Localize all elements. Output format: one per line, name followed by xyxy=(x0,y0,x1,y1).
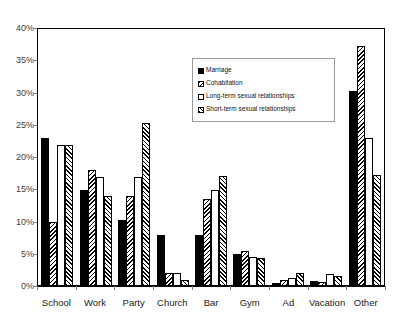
x-axis-label: Other xyxy=(346,292,385,314)
y-axis-tick-label: 5% xyxy=(0,249,34,259)
bar xyxy=(96,177,104,286)
y-axis-tick-label: 20% xyxy=(0,152,34,162)
bar xyxy=(142,123,150,286)
legend-item: Long-term sexual relationships xyxy=(198,90,330,103)
x-axis-tick-mark xyxy=(192,286,193,290)
bar xyxy=(126,196,134,286)
bar xyxy=(219,176,227,287)
y-axis-tick-label: 40% xyxy=(0,23,34,33)
x-axis-label: Bar xyxy=(192,292,231,314)
bar xyxy=(349,91,357,286)
x-axis-tick-mark xyxy=(76,286,77,290)
legend-swatch xyxy=(198,107,204,113)
bar xyxy=(233,254,241,286)
legend-swatch xyxy=(198,94,204,100)
bar xyxy=(211,190,219,286)
y-axis-tick-mark xyxy=(33,254,37,255)
bar xyxy=(118,220,126,286)
bar xyxy=(49,222,57,286)
bar xyxy=(288,278,296,286)
y-axis-tick-mark xyxy=(33,28,37,29)
legend-item: Cohabitation xyxy=(198,77,330,90)
y-axis-tick-label: 15% xyxy=(0,184,34,194)
x-axis-tick-mark xyxy=(153,286,154,290)
bar xyxy=(57,145,65,286)
legend-label: Marriage xyxy=(206,67,232,74)
x-axis-label: Work xyxy=(76,292,115,314)
bar xyxy=(373,175,381,286)
bar xyxy=(80,190,88,286)
y-axis-tick-mark xyxy=(33,60,37,61)
x-axis-tick-mark xyxy=(308,286,309,290)
y-axis-tick-label: 0% xyxy=(0,281,34,291)
x-axis-tick-mark xyxy=(37,286,38,290)
bar xyxy=(134,177,142,286)
y-axis-tick-label: 35% xyxy=(0,55,34,65)
legend-swatch xyxy=(198,81,204,87)
bar xyxy=(357,46,365,286)
bar xyxy=(249,257,257,286)
bar xyxy=(65,145,73,286)
bar xyxy=(326,274,334,286)
y-axis-tick-mark xyxy=(33,93,37,94)
x-axis-tick-mark xyxy=(114,286,115,290)
bar xyxy=(203,199,211,286)
bar-group xyxy=(153,29,191,286)
bar xyxy=(157,235,165,286)
x-axis-label: Ad xyxy=(269,292,308,314)
bar xyxy=(181,280,189,286)
bar xyxy=(272,283,280,286)
bar xyxy=(334,276,342,286)
bar xyxy=(365,138,373,286)
bar xyxy=(241,251,249,286)
y-axis-tick-mark xyxy=(33,189,37,190)
legend-label: Long-term sexual relationships xyxy=(206,93,295,100)
y-axis-tick-mark xyxy=(33,125,37,126)
bar xyxy=(104,196,112,286)
y-axis-tick-label: 25% xyxy=(0,120,34,130)
y-axis-tick-mark xyxy=(33,157,37,158)
legend-item: Marriage xyxy=(198,64,330,77)
x-axis-tick-mark xyxy=(230,286,231,290)
x-axis-tick-mark xyxy=(385,286,386,290)
y-axis-tick-label: 30% xyxy=(0,88,34,98)
legend: MarriageCohabitationLong-term sexual rel… xyxy=(192,58,335,122)
y-axis-tick-mark xyxy=(33,222,37,223)
x-axis-label: School xyxy=(37,292,76,314)
bar-group xyxy=(76,29,114,286)
bar xyxy=(318,282,326,286)
legend-label: Short-term sexual relationships xyxy=(206,106,296,113)
bar-chart: 0%5%10%15%20%25%30%35%40% SchoolWorkPart… xyxy=(0,0,395,326)
bar xyxy=(310,281,318,286)
legend-item: Short-term sexual relationships xyxy=(198,103,330,116)
bar-group xyxy=(115,29,153,286)
legend-label: Cohabitation xyxy=(206,80,243,87)
x-axis-label: Party xyxy=(114,292,153,314)
legend-swatch xyxy=(198,68,204,74)
bar xyxy=(41,138,49,286)
bar xyxy=(165,273,173,286)
bar xyxy=(296,273,304,286)
x-axis-labels: SchoolWorkPartyChurchBarGymAdVacationOth… xyxy=(37,292,385,314)
bar xyxy=(195,235,203,286)
x-axis-label: Gym xyxy=(230,292,269,314)
bar xyxy=(257,258,265,286)
x-axis-label: Vacation xyxy=(308,292,347,314)
x-axis-label: Church xyxy=(153,292,192,314)
x-axis-tick-mark xyxy=(269,286,270,290)
x-axis-line xyxy=(37,286,385,287)
bar xyxy=(88,170,96,286)
bar-group xyxy=(346,29,384,286)
x-axis-tick-mark xyxy=(346,286,347,290)
bar-group xyxy=(38,29,76,286)
bar xyxy=(173,273,181,286)
y-axis-tick-label: 10% xyxy=(0,217,34,227)
bar xyxy=(280,280,288,286)
